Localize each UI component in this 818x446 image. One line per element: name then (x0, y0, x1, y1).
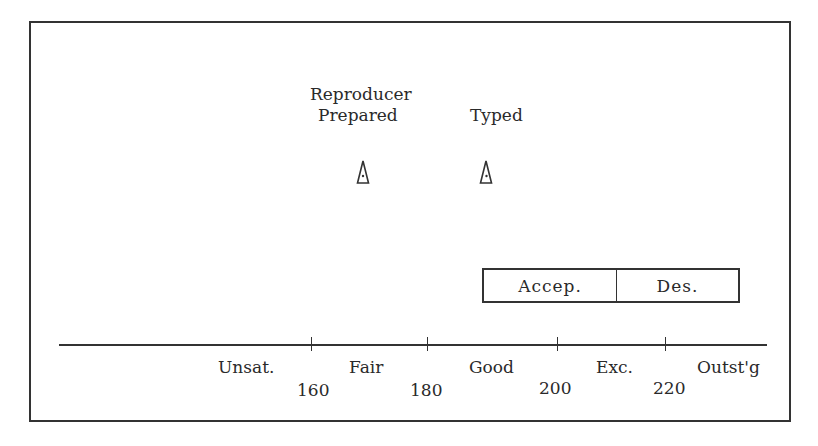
tick-label-200: 200 (539, 378, 571, 398)
tick-160 (311, 337, 312, 351)
marker-label-typed: Typed (470, 105, 523, 125)
tick-180 (427, 337, 428, 351)
axis-line (59, 344, 767, 346)
diagram-frame (29, 21, 791, 422)
tick-label-180: 180 (410, 380, 442, 400)
acceptable-desirable-range: Accep. Des. (482, 268, 740, 303)
marker-label-reproducer: Reproducer (310, 84, 412, 104)
pointer-marker-icon (356, 160, 370, 184)
band-good: Good (469, 357, 514, 377)
tick-220 (665, 337, 666, 351)
tick-label-220: 220 (653, 378, 685, 398)
tick-200 (557, 337, 558, 351)
band-exc: Exc. (596, 357, 633, 377)
band-fair: Fair (349, 357, 383, 377)
range-des: Des. (617, 270, 738, 301)
pointer-marker-icon (479, 160, 493, 184)
band-outst: Outst'g (697, 357, 760, 377)
tick-label-160: 160 (297, 380, 329, 400)
band-unsat: Unsat. (218, 357, 274, 377)
range-accep: Accep. (484, 270, 617, 301)
marker-label-prepared: Prepared (318, 105, 398, 125)
